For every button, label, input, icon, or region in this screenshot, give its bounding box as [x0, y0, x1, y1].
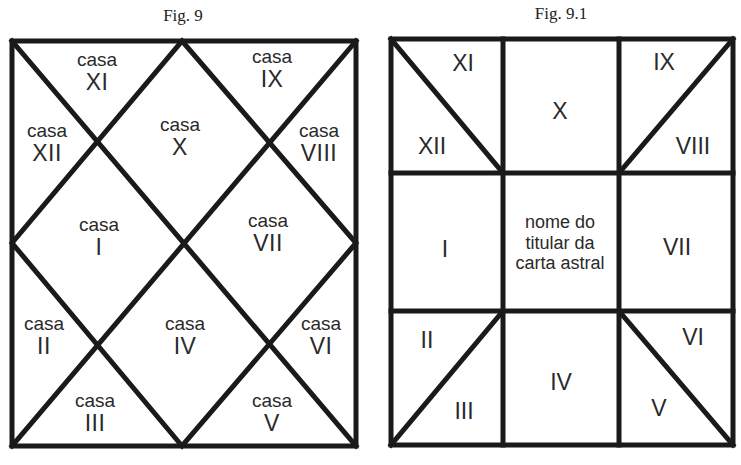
house-word: casa — [24, 314, 64, 334]
house-word: casa — [301, 314, 341, 334]
house-numeral: XII — [27, 141, 67, 165]
house-word: casa — [252, 47, 292, 67]
center-line-2: titular da — [515, 233, 604, 254]
house-word: casa — [160, 115, 200, 135]
center-line-3: carta astral — [515, 253, 604, 274]
center-line-1: nome do — [515, 212, 604, 233]
house-numeral: IX — [252, 67, 292, 91]
house-numeral: VII — [248, 231, 288, 255]
fig9-house-V: casa V — [252, 391, 292, 435]
fig91-house-X: X — [552, 99, 567, 123]
house-word: casa — [75, 391, 115, 411]
fig91-house-XII: XII — [418, 134, 446, 158]
fig9-house-I: casa I — [79, 215, 119, 259]
fig91-center-name: nome do titular da carta astral — [515, 212, 604, 274]
fig91-house-XI: XI — [452, 51, 474, 75]
fig9-house-XI: casa XI — [77, 50, 117, 94]
house-word: casa — [77, 50, 117, 70]
fig9-house-IV: casa IV — [165, 314, 205, 358]
house-numeral: VIII — [299, 141, 339, 165]
house-numeral: II — [24, 334, 64, 358]
fig9-house-III: casa III — [75, 391, 115, 435]
fig9-house-VII: casa VII — [248, 211, 288, 255]
house-numeral: X — [160, 135, 200, 159]
fig91-house-II: II — [421, 328, 434, 352]
fig91-house-VI: VI — [682, 325, 704, 349]
fig9-house-VI: casa VI — [301, 314, 341, 358]
fig91-house-IV: IV — [550, 370, 572, 394]
fig91-house-VII: VII — [663, 235, 691, 259]
fig91-house-VIII: VIII — [676, 134, 711, 158]
house-numeral: I — [79, 235, 119, 259]
fig9-house-VIII: casa VIII — [299, 121, 339, 165]
fig91-house-IX: IX — [653, 50, 675, 74]
fig91-house-V: V — [651, 396, 666, 420]
house-numeral: XI — [77, 70, 117, 94]
fig91-house-I: I — [442, 237, 448, 261]
house-word: casa — [299, 121, 339, 141]
house-numeral: VI — [301, 334, 341, 358]
fig9-house-II: casa II — [24, 314, 64, 358]
house-word: casa — [27, 121, 67, 141]
house-word: casa — [165, 314, 205, 334]
house-word: casa — [252, 391, 292, 411]
fig9-house-IX: casa IX — [252, 47, 292, 91]
fig9-house-X: casa X — [160, 115, 200, 159]
house-numeral: III — [75, 411, 115, 435]
house-word: casa — [79, 215, 119, 235]
fig91-house-III: III — [454, 399, 473, 423]
house-numeral: V — [252, 411, 292, 435]
house-word: casa — [248, 211, 288, 231]
fig9-house-XII: casa XII — [27, 121, 67, 165]
house-numeral: IV — [165, 334, 205, 358]
